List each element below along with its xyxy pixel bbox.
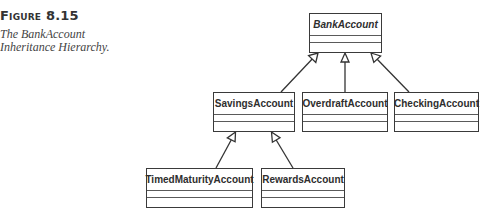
- class-timedmaturityaccount: TimedMaturityAccount: [146, 168, 253, 208]
- class-name: BankAccount: [310, 14, 381, 36]
- edge-rewards-to-savings: [272, 132, 294, 168]
- edge-savings-to-bank: [281, 53, 318, 92]
- class-checkingaccount: CheckingAccount: [394, 92, 479, 132]
- operations-compartment: [395, 122, 478, 129]
- operations-compartment: [147, 198, 252, 205]
- attributes-compartment: [310, 36, 381, 43]
- attributes-compartment: [303, 115, 387, 122]
- attributes-compartment: [214, 115, 294, 122]
- class-name: OverdraftAccount: [303, 93, 387, 115]
- class-overdraftaccount: OverdraftAccount: [302, 92, 388, 132]
- hollow-triangle-arrowhead-icon: [309, 53, 318, 62]
- class-name: TimedMaturityAccount: [147, 169, 252, 191]
- operations-compartment: [303, 122, 387, 129]
- attributes-compartment: [147, 191, 252, 198]
- class-rewardsaccount: RewardsAccount: [261, 168, 345, 208]
- figure-caption: The BankAccount Inheritance Hierarchy.: [0, 28, 110, 54]
- edge-timed-to-savings: [216, 132, 236, 168]
- edge-overdraft-to-bank: [341, 53, 349, 92]
- class-savingsaccount: SavingsAccount: [213, 92, 295, 132]
- hollow-triangle-arrowhead-icon: [371, 53, 381, 62]
- edge-checking-to-bank: [371, 53, 409, 92]
- operations-compartment: [310, 43, 381, 50]
- class-name: CheckingAccount: [395, 93, 478, 115]
- operations-compartment: [214, 122, 294, 129]
- caption-line-2: Inheritance Hierarchy.: [0, 41, 110, 54]
- figure-label: Figure 8.15: [0, 8, 79, 23]
- class-bankaccount: BankAccount: [309, 13, 382, 53]
- attributes-compartment: [395, 115, 478, 122]
- class-name: RewardsAccount: [262, 169, 344, 191]
- class-name: SavingsAccount: [214, 93, 294, 115]
- hollow-triangle-arrowhead-icon: [341, 53, 349, 62]
- hollow-triangle-arrowhead-icon: [272, 132, 281, 142]
- attributes-compartment: [262, 191, 344, 198]
- hollow-triangle-arrowhead-icon: [227, 132, 235, 142]
- operations-compartment: [262, 198, 344, 205]
